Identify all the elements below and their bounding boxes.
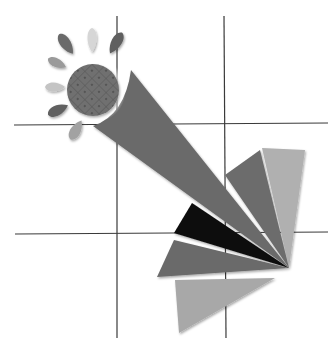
sun-fan-illustration — [0, 0, 336, 353]
petal-top-left — [55, 31, 77, 57]
fan-rays — [93, 70, 305, 333]
sun — [67, 64, 119, 116]
petal-top-middle — [88, 28, 97, 52]
petal-left-upper — [46, 55, 68, 72]
sun-disc — [67, 64, 119, 116]
light-bottom-ray — [175, 278, 275, 333]
illustration-canvas: Sun with fan of triangular rays over gri… — [0, 0, 336, 353]
petal-bottom — [66, 118, 86, 142]
petal-top-right — [105, 30, 126, 56]
